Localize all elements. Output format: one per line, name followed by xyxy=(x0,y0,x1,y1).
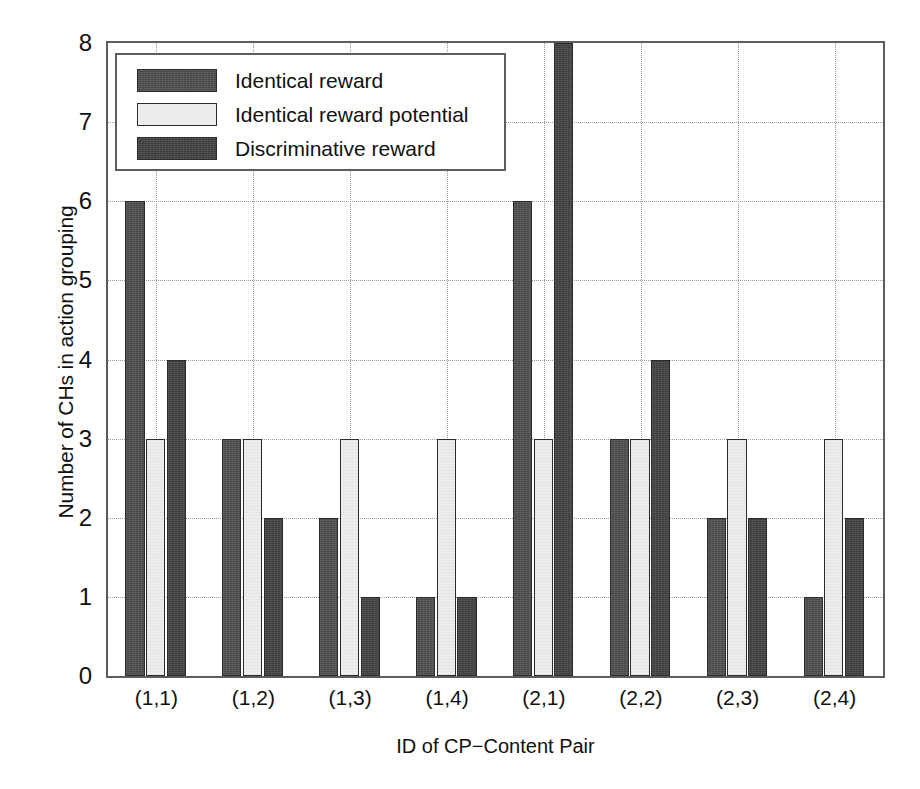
y-tick-label: 4 xyxy=(46,346,92,374)
bar-(1,1)-s0 xyxy=(125,201,144,676)
legend-label: Identical reward xyxy=(235,69,383,93)
legend-entry[interactable]: Discriminative reward xyxy=(117,132,504,165)
y-gridline xyxy=(108,201,883,202)
bar-(2,3)-s1 xyxy=(727,439,746,676)
bar-(1,3)-s0 xyxy=(319,518,338,676)
legend-swatch-identical-reward-potential xyxy=(137,103,217,126)
bar-(1,3)-s1 xyxy=(340,439,359,676)
bar-(1,1)-s1 xyxy=(146,439,165,676)
bar-(1,4)-s1 xyxy=(437,439,456,676)
bar-(1,4)-s0 xyxy=(416,597,435,676)
bar-(1,1)-s2 xyxy=(167,360,186,677)
y-tick-label: 8 xyxy=(46,29,92,57)
legend-entry[interactable]: Identical reward potential xyxy=(117,98,504,131)
y-tick-label: 0 xyxy=(46,662,92,690)
y-gridline xyxy=(108,360,883,361)
bar-(2,1)-s0 xyxy=(513,201,532,676)
y-gridline xyxy=(108,280,883,281)
chart-legend: Identical reward Identical reward potent… xyxy=(115,53,506,171)
y-tick-label: 5 xyxy=(46,266,92,294)
bar-(2,1)-s1 xyxy=(534,439,553,676)
y-tick-label: 2 xyxy=(46,504,92,532)
x-axis-label: ID of CP−Content Pair xyxy=(106,735,885,758)
bar-(1,2)-s0 xyxy=(222,439,241,676)
legend-label: Discriminative reward xyxy=(235,137,436,161)
bar-(2,4)-s1 xyxy=(824,439,843,676)
legend-entry[interactable]: Identical reward xyxy=(117,64,504,97)
legend-swatch-identical-reward xyxy=(137,69,217,92)
y-tick-label: 7 xyxy=(46,108,92,136)
x-tick-label: (2,4) xyxy=(775,686,895,710)
bar-(2,2)-s1 xyxy=(630,439,649,676)
legend-swatch-discriminative-reward xyxy=(137,137,217,160)
y-tick-label: 6 xyxy=(46,187,92,215)
y-tick-label: 3 xyxy=(46,425,92,453)
bar-(2,2)-s2 xyxy=(651,360,670,677)
bar-(1,2)-s2 xyxy=(264,518,283,676)
y-tick-label: 1 xyxy=(46,583,92,611)
bar-(2,3)-s2 xyxy=(748,518,767,676)
legend-label: Identical reward potential xyxy=(235,103,468,127)
bar-(2,4)-s2 xyxy=(845,518,864,676)
bar-(2,2)-s0 xyxy=(610,439,629,676)
bar-(1,2)-s1 xyxy=(243,439,262,676)
bar-(1,3)-s2 xyxy=(361,597,380,676)
bar-(2,4)-s0 xyxy=(804,597,823,676)
bar-(1,4)-s2 xyxy=(457,597,476,676)
bar-chart-figure: Number of CHs in action grouping ID of C… xyxy=(0,0,920,789)
bar-(2,3)-s0 xyxy=(707,518,726,676)
bar-(2,1)-s2 xyxy=(554,43,573,676)
